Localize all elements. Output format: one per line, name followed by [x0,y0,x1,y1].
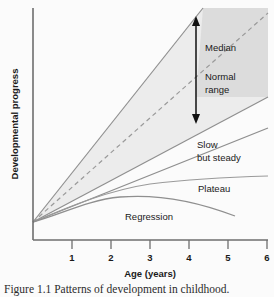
x-tick-label-2: 2 [108,252,113,263]
x-tick-label-4: 4 [186,252,192,263]
label-median: Median [205,42,236,53]
developmental-progress-chart: 1 2 3 4 5 6 Age (years) Developmental pr… [0,0,274,297]
figure-container: 1 2 3 4 5 6 Age (years) Developmental pr… [0,0,274,297]
figure-caption: Figure 1.1 Patterns of development in ch… [0,283,274,297]
label-slow-line2: but steady [197,152,241,163]
label-normal-range-line2: range [205,84,229,95]
x-axis-title: Age (years) [124,268,176,279]
label-regression: Regression [125,211,173,222]
label-normal-range-line1: Normal [205,71,236,82]
label-plateau: Plateau [198,183,230,194]
x-tick-label-5: 5 [225,252,231,263]
x-tick-label-6: 6 [264,252,269,263]
figure-caption-text: Figure 1.1 Patterns of development in ch… [4,283,230,296]
x-tick-label-3: 3 [147,252,152,263]
y-axis-title: Developmental progress [9,69,20,180]
label-slow-line1: Slow [197,139,218,150]
x-tick-label-1: 1 [69,252,75,263]
